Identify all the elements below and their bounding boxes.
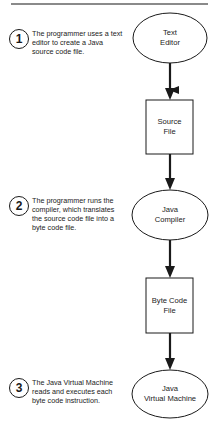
label-line: Java (132, 384, 208, 394)
label-line: Text (133, 28, 207, 38)
label-line: Byte Code (143, 296, 196, 306)
byte-code-file-label: Byte Code File (143, 296, 196, 316)
step-number-badge: 3 (9, 378, 29, 398)
step-number-badge: 1 (9, 29, 29, 49)
label-line: File (143, 306, 196, 316)
label-line: Java (132, 205, 208, 215)
label-line: Virtual Machine (132, 394, 208, 404)
step-1: 1 The programmer uses a text editor to c… (9, 29, 124, 56)
step-description: The Java Virtual Machine reads and execu… (32, 378, 124, 405)
label-line: File (146, 127, 193, 137)
source-file-label: Source File (146, 117, 193, 137)
label-line: Editor (133, 38, 207, 48)
step-3: 3 The Java Virtual Machine reads and exe… (9, 378, 124, 405)
label-line: Compiler (132, 215, 208, 225)
text-editor-label: Text Editor (133, 28, 207, 48)
label-line: Source (146, 117, 193, 127)
step-description: The programmer runs the compiler, which … (32, 196, 124, 232)
jvm-label: Java Virtual Machine (132, 384, 208, 404)
step-description: The programmer uses a text editor to cre… (32, 29, 124, 56)
step-number-badge: 2 (9, 196, 29, 216)
step-2: 2 The programmer runs the compiler, whic… (9, 196, 124, 232)
java-compiler-label: Java Compiler (132, 205, 208, 225)
